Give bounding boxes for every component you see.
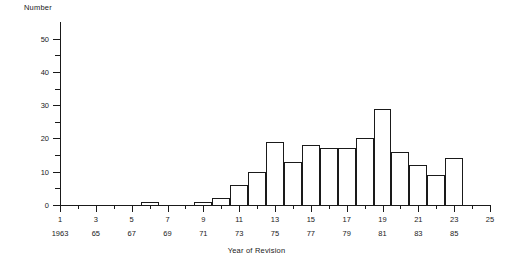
bar <box>230 185 248 205</box>
y-tick-major: 10 <box>53 172 60 173</box>
y-tick-label: 30 <box>41 101 49 110</box>
y-tick-major: 0 <box>53 205 60 206</box>
x-tick-major <box>203 205 204 212</box>
bar <box>284 162 302 205</box>
x-tick-index-label: 19 <box>378 215 386 224</box>
y-tick-major: 40 <box>53 72 60 73</box>
histogram-chart: Number 01020304050 119633655677699711173… <box>0 0 513 266</box>
x-tick-year-label: 83 <box>414 229 422 238</box>
x-tick-index-label: 1 <box>58 215 62 224</box>
x-tick-year-label: 65 <box>92 229 100 238</box>
x-tick-index-label: 23 <box>450 215 458 224</box>
bar <box>427 175 445 205</box>
x-tick-minor <box>78 205 79 209</box>
x-tick-major <box>311 205 312 212</box>
x-tick-minor <box>221 205 222 209</box>
x-tick-major <box>132 205 133 212</box>
x-tick-minor <box>114 205 115 209</box>
x-tick-year-label: 1963 <box>52 229 69 238</box>
bar-series <box>60 22 490 205</box>
x-tick-index-label: 13 <box>271 215 279 224</box>
bar <box>266 142 284 205</box>
y-tick-label: 50 <box>41 34 49 43</box>
y-tick-label: 0 <box>45 201 49 210</box>
x-tick-major <box>454 205 455 212</box>
x-tick-year-label: 69 <box>163 229 171 238</box>
bar <box>374 109 392 205</box>
x-tick-year-label: 81 <box>378 229 386 238</box>
y-tick-major: 50 <box>53 39 60 40</box>
x-tick-index-label: 5 <box>130 215 134 224</box>
x-tick-minor <box>329 205 330 209</box>
x-tick-minor <box>150 205 151 209</box>
x-tick-minor <box>436 205 437 209</box>
y-tick-major: 30 <box>53 105 60 106</box>
x-tick-year-label: 71 <box>199 229 207 238</box>
x-axis-label: Year of Revision <box>0 246 513 255</box>
x-tick-major <box>168 205 169 212</box>
x-tick-major <box>96 205 97 212</box>
bar <box>338 148 356 205</box>
x-tick-index-label: 17 <box>342 215 350 224</box>
x-tick-minor <box>472 205 473 209</box>
bar <box>409 165 427 205</box>
x-tick-index-label: 7 <box>165 215 169 224</box>
x-tick-minor <box>365 205 366 209</box>
y-tick-label: 10 <box>41 167 49 176</box>
bar <box>356 138 374 205</box>
bar <box>320 148 338 205</box>
x-tick-year-label: 85 <box>450 229 458 238</box>
x-tick-major <box>347 205 348 212</box>
x-tick-minor <box>257 205 258 209</box>
x-tick-index-label: 25 <box>486 215 494 224</box>
bar <box>212 198 230 205</box>
x-tick-index-label: 9 <box>201 215 205 224</box>
x-tick-year-label: 79 <box>342 229 350 238</box>
y-axis-label: Number <box>24 3 52 12</box>
bar <box>248 172 266 205</box>
plot-area: 01020304050 <box>60 22 490 205</box>
bar <box>302 145 320 205</box>
x-tick-minor <box>185 205 186 209</box>
x-tick-major <box>60 205 61 212</box>
x-tick-index-label: 21 <box>414 215 422 224</box>
x-tick-index-label: 11 <box>235 215 243 224</box>
x-tick-minor <box>293 205 294 209</box>
y-tick-major: 20 <box>53 138 60 139</box>
x-tick-year-label: 73 <box>235 229 243 238</box>
bar <box>391 152 409 205</box>
y-tick-label: 20 <box>41 134 49 143</box>
x-tick-index-label: 15 <box>307 215 315 224</box>
x-axis-ticks: 1196336556776997111731375157717791981218… <box>60 205 490 239</box>
x-tick-major <box>490 205 491 212</box>
x-tick-minor <box>400 205 401 209</box>
x-tick-year-label: 77 <box>307 229 315 238</box>
x-tick-major <box>418 205 419 212</box>
x-tick-major <box>275 205 276 212</box>
x-tick-major <box>383 205 384 212</box>
x-tick-major <box>239 205 240 212</box>
bar <box>445 158 463 205</box>
x-tick-year-label: 75 <box>271 229 279 238</box>
x-tick-year-label: 67 <box>127 229 135 238</box>
x-tick-index-label: 3 <box>94 215 98 224</box>
y-tick-label: 40 <box>41 67 49 76</box>
